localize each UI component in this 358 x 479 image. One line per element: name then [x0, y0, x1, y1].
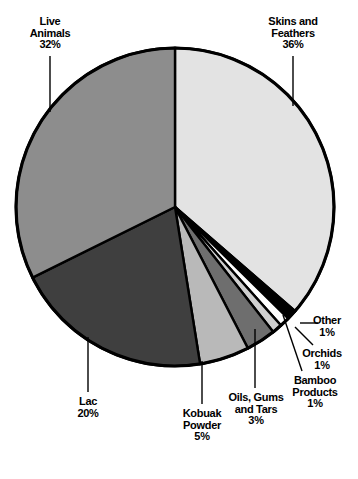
pie-label-kobuak-powder-value: 5% [168, 431, 236, 443]
pie-label-orchids: Orchids 1% [290, 348, 354, 371]
pie-label-oils-gums-and-tars-value: 3% [220, 415, 292, 427]
pie-label-skins-and-feathers: Skins and Feathers 36% [248, 16, 338, 51]
pie-label-lac: Lac 20% [58, 396, 118, 419]
pie-label-lac-line1: Lac [58, 396, 118, 408]
pie-label-bamboo-products: Bamboo Products 1% [277, 375, 353, 410]
pie-label-other: Other 1% [300, 315, 354, 338]
pie-label-skins-and-feathers-line1: Skins and [248, 16, 338, 28]
pie-label-bamboo-products-value: 1% [277, 398, 353, 410]
pie-label-other-line1: Other [300, 315, 354, 327]
pie-label-live-animals-value: 32% [5, 39, 95, 51]
pie-chart-figure: Live Animals 32% Skins and Feathers 36% … [0, 0, 358, 479]
pie-label-bamboo-products-line1: Bamboo [277, 375, 353, 387]
pie-label-lac-value: 20% [58, 408, 118, 420]
pie-label-skins-and-feathers-value: 36% [248, 39, 338, 51]
pie-label-other-value: 1% [300, 327, 354, 339]
pie-slices [16, 48, 334, 366]
pie-label-live-animals: Live Animals 32% [5, 16, 95, 51]
pie-label-orchids-value: 1% [290, 360, 354, 372]
pie-label-live-animals-line1: Live [5, 16, 95, 28]
pie-label-orchids-line1: Orchids [290, 348, 354, 360]
